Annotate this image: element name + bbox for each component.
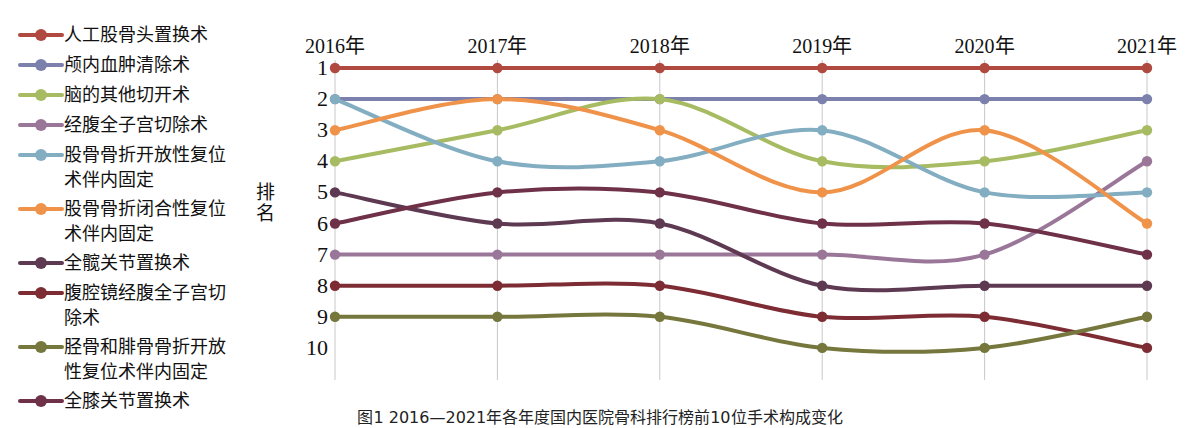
data-point-marker <box>655 218 665 228</box>
data-point-marker <box>817 187 827 197</box>
data-point-marker <box>492 281 502 291</box>
x-axis-tick-label: 2017年 <box>437 30 557 59</box>
data-point-marker <box>1142 63 1152 73</box>
data-point-marker <box>817 281 827 291</box>
figure-caption: 图1 2016—2021年各年度国内医院骨科排行榜前10位手术构成变化 <box>0 404 1200 428</box>
data-point-marker <box>817 312 827 322</box>
data-point-marker <box>817 63 827 73</box>
series-path <box>335 99 1147 197</box>
data-point-marker <box>655 125 665 135</box>
data-point-marker <box>330 312 340 322</box>
data-point-marker <box>1142 343 1152 353</box>
data-point-marker <box>979 281 989 291</box>
y-axis-title: 排名 <box>252 182 278 224</box>
series-path <box>335 98 1147 167</box>
series-path <box>335 314 1147 351</box>
data-point-marker <box>979 125 989 135</box>
y-axis-tick-label: 4 <box>288 150 328 172</box>
x-axis-tick-label: 2018年 <box>600 30 720 59</box>
data-point-marker <box>492 218 502 228</box>
data-point-marker <box>330 156 340 166</box>
data-point-marker <box>492 125 502 135</box>
data-point-marker <box>1142 249 1152 259</box>
data-point-marker <box>492 156 502 166</box>
data-point-marker <box>492 249 502 259</box>
data-point-marker <box>330 125 340 135</box>
y-axis-tick-label: 2 <box>288 88 328 110</box>
x-axis-tick-label: 2020年 <box>925 30 1045 59</box>
data-point-marker <box>817 249 827 259</box>
data-point-marker <box>1142 312 1152 322</box>
data-point-marker <box>655 312 665 322</box>
data-point-marker <box>330 281 340 291</box>
data-point-marker <box>492 187 502 197</box>
data-point-marker <box>979 63 989 73</box>
data-point-marker <box>979 187 989 197</box>
data-point-marker <box>492 63 502 73</box>
data-point-marker <box>979 343 989 353</box>
data-point-marker <box>817 94 827 104</box>
data-point-marker <box>492 312 502 322</box>
y-axis-tick-label: 7 <box>288 244 328 266</box>
data-point-marker <box>330 218 340 228</box>
y-axis-ticks: 12345678910 <box>280 0 328 422</box>
y-axis-tick-label: 9 <box>288 306 328 328</box>
data-point-marker <box>817 218 827 228</box>
data-point-marker <box>655 63 665 73</box>
y-axis-tick-label: 5 <box>288 181 328 203</box>
data-point-marker <box>1142 156 1152 166</box>
data-point-marker <box>817 156 827 166</box>
x-axis-tick-label: 2021年 <box>1087 30 1200 59</box>
series-line <box>330 187 1152 291</box>
data-point-marker <box>979 94 989 104</box>
data-point-marker <box>655 281 665 291</box>
x-axis-tick-label: 2019年 <box>762 30 882 59</box>
data-point-marker <box>655 156 665 166</box>
data-point-marker <box>655 187 665 197</box>
data-point-marker <box>979 312 989 322</box>
data-point-marker <box>1142 218 1152 228</box>
y-axis-tick-label: 10 <box>288 337 328 359</box>
data-point-marker <box>330 63 340 73</box>
data-point-marker <box>492 94 502 104</box>
data-point-marker <box>979 218 989 228</box>
y-axis-tick-label: 3 <box>288 119 328 141</box>
data-point-marker <box>979 156 989 166</box>
data-point-marker <box>330 249 340 259</box>
x-axis-tick-label: 2016年 <box>275 30 395 59</box>
y-axis-tick-label: 6 <box>288 213 328 235</box>
data-point-marker <box>817 125 827 135</box>
series-line <box>330 312 1152 354</box>
data-point-marker <box>979 249 989 259</box>
series-line <box>330 63 1152 73</box>
y-axis-tick-label: 1 <box>288 57 328 79</box>
data-point-marker <box>655 94 665 104</box>
data-point-marker <box>1142 94 1152 104</box>
series-path <box>335 161 1147 261</box>
data-point-marker <box>1142 187 1152 197</box>
data-point-marker <box>330 94 340 104</box>
data-point-marker <box>817 343 827 353</box>
series-path <box>335 99 1147 223</box>
y-axis-tick-label: 8 <box>288 275 328 297</box>
data-point-marker <box>1142 281 1152 291</box>
data-point-marker <box>655 249 665 259</box>
data-point-marker <box>1142 125 1152 135</box>
data-point-marker <box>330 187 340 197</box>
